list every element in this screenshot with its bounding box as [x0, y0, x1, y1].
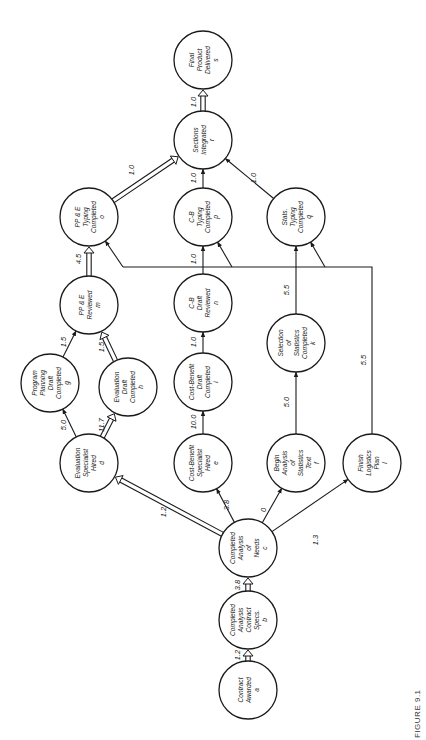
node-label-line: Statistics	[293, 329, 300, 356]
edge-duration-label: 1.0	[189, 172, 198, 183]
event-node-o: PP & ETypingCompletedo	[60, 188, 118, 246]
edge-duration-label: 10.0	[189, 414, 198, 429]
event-node-g: ProgramPlanningDraftCompletedg	[21, 354, 79, 412]
edge-duration-label: 1.0	[249, 172, 258, 183]
node-label-line: Cost-Benefit	[188, 444, 195, 481]
node-label-line: Typing	[82, 207, 90, 227]
event-node-n: C-BDraftReviewedn	[174, 274, 232, 332]
node-label-line: Cost-Benefit	[188, 363, 195, 400]
node-label-line: m	[94, 302, 101, 308]
node-label-line: Specialist	[196, 448, 204, 477]
edge-duration-label: 0	[259, 507, 268, 512]
node-label-line: e	[212, 461, 219, 465]
edge-duration-label: 5.5	[359, 354, 368, 365]
node-label-line: Product	[196, 47, 203, 71]
event-node-s: FinalProductDelivereds	[174, 31, 232, 89]
node-label-line: C-B	[188, 297, 195, 309]
edge-c-f	[262, 488, 281, 522]
node-label-line: Completed	[90, 201, 98, 233]
node-label-line: Completed	[297, 201, 305, 233]
hollow-arrowhead-icon	[243, 578, 253, 584]
edge-duration-label: 5.0	[282, 396, 291, 407]
node-label-line: Completed	[229, 604, 237, 636]
node-label-line: Final	[188, 52, 195, 67]
hollow-arrowhead-icon	[243, 650, 253, 656]
edge-duration-label: 11.7	[97, 417, 106, 432]
figure-caption: FIGURE 9.1	[413, 689, 422, 738]
node-label-line: Completed	[301, 327, 309, 359]
node-label-line: Reviewed	[86, 290, 93, 319]
node-label-line: PP & E	[74, 206, 81, 228]
node-label-line: Finish	[357, 454, 364, 472]
logistics-bus-line	[123, 267, 372, 434]
event-node-m: PP & EReviewedm	[60, 276, 118, 334]
event-node-d: EvaluationSpecialistHiredd	[60, 434, 118, 492]
hollow-arrowhead-icon	[84, 247, 94, 253]
event-node-i: Cost-BenefitDraftCompletedi	[174, 353, 232, 411]
node-label-line: Awarded	[245, 677, 252, 704]
node-label-line: Specs.	[253, 610, 261, 630]
edge-o-r	[112, 156, 178, 203]
node-label-line: Evaluation	[113, 371, 120, 402]
node-label-line: Typing	[196, 207, 204, 227]
bus-tap-q	[311, 242, 325, 267]
edge-duration-label: 3.8	[222, 499, 231, 510]
node-label-line: Completed	[229, 532, 237, 564]
edge-duration-label: 5.0	[59, 419, 68, 430]
node-label-line: o	[98, 215, 105, 219]
event-node-l: FinishLogisticsPlanl	[343, 434, 401, 492]
edge-duration-label: 3.8	[233, 579, 242, 590]
edge-a-b	[243, 650, 253, 661]
edge-duration-label: 1.5	[59, 336, 68, 347]
node-label-line: Draft	[196, 295, 203, 310]
event-node-f: BeginAnalysisofStatisticsTextf	[267, 434, 325, 492]
edge-duration-label: 1.5	[97, 341, 106, 352]
node-label-line: Reviewed	[204, 288, 211, 317]
node-label-line: Hired	[90, 455, 97, 471]
event-node-r: SectionsIntegratedr	[174, 111, 232, 169]
edge-duration-label: 1.3	[311, 534, 320, 545]
hollow-arrowhead-icon	[198, 90, 208, 96]
node-label-line: a	[253, 688, 260, 692]
node-label-line: Specialist	[82, 448, 90, 477]
edge-r-s	[198, 90, 208, 111]
node-label-line: Plan	[373, 456, 380, 470]
edge-m-o	[84, 247, 94, 276]
node-label-line: Contract	[237, 676, 244, 702]
event-node-q: Stats.TypingCompletedq	[267, 188, 325, 246]
node-label-line: Analysis	[237, 535, 245, 561]
edge-duration-label: 4.5	[74, 253, 83, 264]
node-label-line: Text	[305, 456, 312, 469]
node-label-line: Typing	[289, 207, 297, 227]
node-label-line: C-B	[188, 211, 195, 223]
edge-b-c	[243, 578, 253, 591]
node-label-line: p	[212, 215, 220, 220]
nodes-layer: ContractAwardedaCompletedAnalysisContrac…	[21, 31, 401, 719]
edge-duration-label: 1.0	[189, 253, 198, 264]
node-label-line: Draft	[121, 379, 128, 394]
node-label-line: Delivered	[204, 46, 211, 74]
edge-duration-label: 1.0	[189, 96, 198, 107]
node-label-line: Begin	[273, 454, 281, 471]
node-label-line: Needs	[253, 538, 260, 558]
node-label-line: q	[305, 215, 313, 219]
node-label-line: Completed	[129, 371, 137, 403]
bus-tap-o	[105, 241, 123, 267]
node-label-line: h	[137, 385, 144, 389]
node-label-line: Planning	[39, 370, 47, 396]
edge-duration-label: 1.0	[189, 336, 198, 347]
hollow-arrowhead-icon	[170, 156, 178, 164]
node-label-line: n	[212, 301, 219, 305]
node-label-line: Draft	[47, 375, 54, 390]
node-label-line: Selection	[277, 329, 284, 356]
node-label-line: Evaluation	[74, 447, 81, 478]
node-label-line: Contract	[245, 606, 252, 632]
node-label-line: Program	[31, 370, 39, 396]
node-label-line: Analysis	[281, 450, 289, 476]
node-label-line: b	[261, 618, 268, 622]
node-label-line: Completed	[204, 366, 212, 398]
event-node-c: CompletedAnalysisofNeedsc	[219, 519, 277, 577]
pert-network-diagram: 5.5 1.23.81.23.801.35.011.71.51.54.510.0…	[0, 0, 426, 740]
node-label-line: Hired	[204, 455, 211, 471]
edge-duration-label: 1.0	[127, 164, 136, 175]
